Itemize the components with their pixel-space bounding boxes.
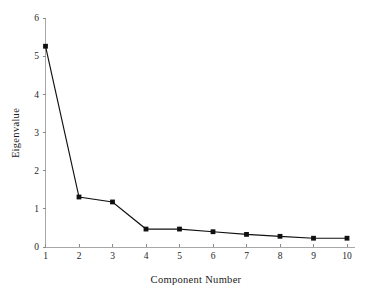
x-tick-label: 9 <box>311 251 316 261</box>
data-point-marker <box>77 195 82 200</box>
x-tick-label: 2 <box>77 251 82 261</box>
data-point-marker <box>177 227 182 232</box>
y-tick-label: 0 <box>34 242 39 252</box>
x-tick-label: 6 <box>211 251 216 261</box>
x-tick-label: 5 <box>177 251 182 261</box>
data-point-marker <box>211 229 216 234</box>
scree-plot: 0123456 12345678910 Component Number Eig… <box>0 0 370 299</box>
x-tick-label: 3 <box>110 251 115 261</box>
y-tick-label: 3 <box>34 128 39 138</box>
y-axis-title: Eigenvalue <box>10 108 21 158</box>
y-tick-label: 1 <box>34 204 39 214</box>
data-point-marker <box>244 232 249 237</box>
x-tick-label: 10 <box>342 251 352 261</box>
x-tick-label: 7 <box>244 251 249 261</box>
x-tick-label: 4 <box>144 251 149 261</box>
data-point-marker <box>311 236 316 241</box>
y-tick-label: 5 <box>34 51 39 61</box>
data-point-marker <box>345 236 350 241</box>
y-tick-label: 6 <box>34 13 39 23</box>
data-point-marker <box>278 234 283 239</box>
data-point-marker <box>43 44 48 49</box>
y-tick-label: 2 <box>34 166 39 176</box>
data-point-marker <box>144 227 149 232</box>
x-axis-title: Component Number <box>151 274 242 285</box>
y-tick-label: 4 <box>34 90 39 100</box>
x-tick-label: 8 <box>278 251 283 261</box>
data-point-marker <box>110 200 115 205</box>
x-tick-label: 1 <box>43 251 48 261</box>
